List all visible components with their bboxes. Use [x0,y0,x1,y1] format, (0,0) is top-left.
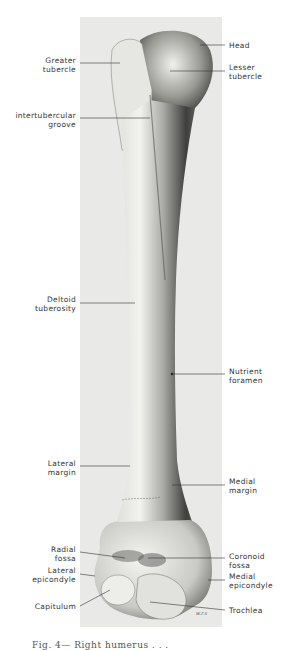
figure-caption: Fig. 4— Right humerus . . . [32,640,169,650]
label-medial-epicondyle: Medial epicondyle [229,573,283,590]
artist-initials: w.r.s [196,610,207,616]
label-line: tubercle [229,73,283,82]
label-lateral-epicondyle: Lateral epicondyle [8,567,76,584]
label-head: Head [229,42,283,51]
label-lesser-tubercle: Lesser tubercle [229,64,283,81]
label-deltoid-tuberosity: Deltoid tuberosity [8,296,76,313]
label-coronoid-fossa: Coronoid fossa [229,553,283,570]
label-capitulum: Capitulum [8,603,76,612]
label-line: Trochlea [229,607,283,616]
label-medial-margin: Medial margin [229,478,283,495]
label-line: epicondyle [229,582,283,591]
label-radial-fossa: Radial fossa [8,546,76,563]
label-line: epicondyle [8,576,76,585]
label-line: tubercle [8,66,76,75]
label-line: tuberosity [8,305,76,314]
label-trochlea: Trochlea [229,607,283,616]
label-lateral-margin: Lateral margin [8,460,76,477]
capitulum-shape [101,575,135,605]
label-line: margin [8,469,76,478]
label-line: fossa [8,555,76,564]
label-intertubercular-groove: intertubercular groove [0,112,76,129]
label-line: foramen [229,377,283,386]
label-line: groove [0,121,76,130]
label-line: margin [229,487,283,496]
label-line: Capitulum [8,603,76,612]
label-nutrient-foramen: Nutrient foramen [229,368,283,385]
label-line: fossa [229,562,283,571]
humeral-shaft [108,100,200,545]
label-line: Head [229,42,283,51]
label-greater-tubercle: Greater tubercle [8,57,76,74]
